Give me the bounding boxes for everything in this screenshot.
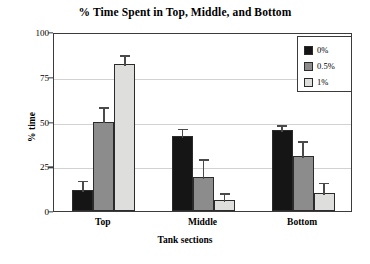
legend-label: 1% (317, 77, 328, 87)
bar (314, 193, 335, 211)
error-bar-cap (78, 181, 88, 182)
y-tick-label: 0 (19, 207, 49, 217)
bar (293, 156, 314, 211)
error-bar-cap (298, 141, 308, 142)
bar-chart: % Time Spent in Top, Middle, and Bottom … (0, 0, 370, 264)
error-bar-cap (178, 129, 188, 130)
error-bar-stem (124, 55, 125, 66)
error-bar-stem (323, 183, 324, 196)
error-bar-stem (82, 181, 83, 192)
bar (72, 190, 93, 211)
error-bar-stem (103, 107, 104, 123)
legend-swatch-icon (304, 62, 313, 71)
error-bar-stem (203, 159, 204, 179)
error-bar-cap (120, 55, 130, 56)
legend-item: 1% (304, 75, 328, 89)
y-tick-label: 50 (19, 118, 49, 128)
bar (93, 122, 114, 212)
y-tick-label: 100 (19, 28, 49, 38)
chart-title: % Time Spent in Top, Middle, and Bottom (0, 6, 370, 18)
bar (193, 177, 214, 211)
error-bar-cap (277, 125, 287, 126)
x-group-label-top: Top (63, 217, 143, 227)
error-bar-stem (302, 141, 303, 157)
legend-label: 0% (317, 45, 328, 55)
bar (172, 136, 193, 211)
y-tick-label: 25 (19, 162, 49, 172)
legend-item: 0.5% (304, 59, 335, 73)
bar (114, 64, 135, 211)
legend: 0%0.5%1% (297, 36, 352, 92)
x-group-label-middle: Middle (163, 217, 243, 227)
error-bar-cap (319, 183, 329, 184)
x-group-label-bottom: Bottom (262, 217, 342, 227)
error-bar-cap (220, 193, 230, 194)
error-bar-cap (99, 107, 109, 108)
bar (272, 130, 293, 211)
legend-label: 0.5% (317, 61, 335, 71)
y-tick-label: 75 (19, 73, 49, 83)
legend-item: 0% (304, 43, 328, 57)
legend-swatch-icon (304, 78, 313, 87)
x-axis-title: Tank sections (0, 235, 370, 245)
legend-swatch-icon (304, 46, 313, 55)
error-bar-cap (199, 159, 209, 160)
